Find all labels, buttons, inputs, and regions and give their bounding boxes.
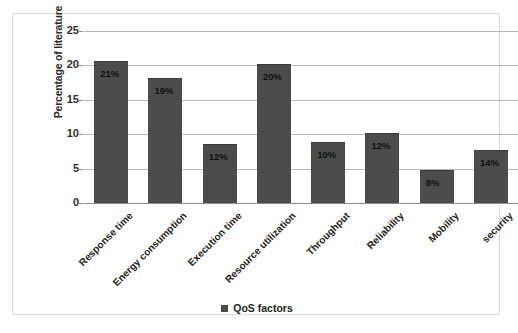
- bar-value-label: 21%: [100, 68, 119, 79]
- y-axis-tick-label: 25: [53, 24, 79, 36]
- x-axis-category-label: Mobility: [426, 210, 460, 244]
- bar-value-label: 14%: [480, 157, 499, 168]
- y-axis-tick-mark: [78, 100, 83, 101]
- x-axis-category-labels: Response timeEnergy consumptionExecution…: [84, 204, 518, 294]
- legend-square-marker-icon: [221, 305, 228, 312]
- gridline: [84, 65, 518, 66]
- y-axis-tick-mark: [78, 169, 83, 170]
- y-axis-tick-mark: [78, 65, 83, 66]
- plot-area: 21%19%12%20%10%12%8%14%: [84, 31, 518, 203]
- x-axis-category-label: security: [480, 210, 515, 245]
- y-axis-tick-label: 10: [53, 127, 79, 139]
- x-axis-category-label: Response time: [77, 210, 135, 268]
- y-axis-tick-label: 20: [53, 58, 79, 70]
- bar-value-label: 10%: [317, 149, 336, 160]
- bar-value-label: 12%: [209, 151, 228, 162]
- chart-figure: Percentage of literature 0510152025 21%1…: [0, 0, 518, 333]
- y-axis-tick-label: 5: [53, 162, 79, 174]
- gridline: [84, 31, 518, 32]
- chart-frame: Percentage of literature 0510152025 21%1…: [12, 13, 500, 315]
- y-axis-tick-mark: [78, 203, 83, 204]
- x-axis-category-label: Reliability: [365, 210, 406, 251]
- bar-value-label: 20%: [263, 71, 282, 82]
- bar: [257, 64, 291, 203]
- bar: [148, 78, 182, 203]
- legend-label: QoS factors: [233, 302, 293, 314]
- y-axis-tick-label: 0: [53, 196, 79, 208]
- bar-value-label: 19%: [154, 85, 173, 96]
- y-axis-tick-mark: [78, 31, 83, 32]
- y-axis-tick-labels: 0510152025: [49, 31, 79, 203]
- x-axis-category-label: Throughput: [304, 210, 351, 257]
- chart-legend: QoS factors: [13, 302, 501, 314]
- bar-value-label: 12%: [371, 140, 390, 151]
- x-axis-category-label: Execution time: [185, 210, 243, 268]
- y-axis-tick-label: 15: [53, 93, 79, 105]
- bar-value-label: 8%: [426, 177, 440, 188]
- bar: [94, 61, 128, 203]
- y-axis-tick-mark: [78, 134, 83, 135]
